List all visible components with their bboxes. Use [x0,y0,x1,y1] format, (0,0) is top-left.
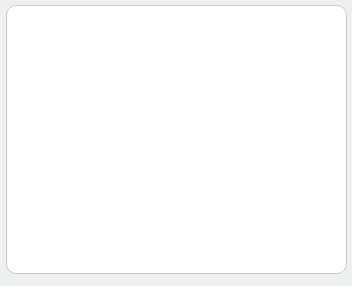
weight-chart-canvas [0,0,352,286]
page: { "title": "Girls’ weight (2–18 years)",… [0,0,352,286]
